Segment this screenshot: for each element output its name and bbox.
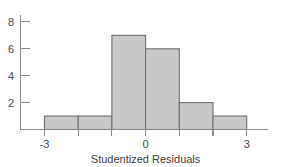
x-tick-label-zero: 0 [143, 138, 149, 150]
bar-bin-6 [213, 116, 247, 129]
x-tick-label-pos3: 3 [244, 138, 250, 150]
histogram-chart: 8 6 4 2 -3 0 3 Studentized Residuals [0, 0, 285, 167]
bars-group [45, 35, 247, 129]
bar-bin-5 [179, 103, 213, 130]
x-axis-ticks [45, 130, 247, 137]
y-tick-label-6: 6 [8, 43, 14, 55]
y-axis-ticks [21, 22, 30, 103]
y-axis-labels: 8 6 4 2 [8, 16, 14, 109]
bar-bin-4 [146, 49, 180, 130]
x-axis-labels: -3 0 3 [40, 138, 250, 150]
y-tick-label-8: 8 [8, 16, 14, 28]
y-tick-label-2: 2 [8, 97, 14, 109]
x-axis-title: Studentized Residuals [91, 153, 201, 165]
plot-area: 8 6 4 2 -3 0 3 Studentized Residuals [0, 0, 285, 167]
x-tick-label-neg3: -3 [40, 138, 50, 150]
bar-bin-3 [112, 35, 146, 129]
bar-bin-1 [45, 116, 79, 129]
bar-bin-2 [78, 116, 112, 129]
y-tick-label-4: 4 [8, 70, 14, 82]
